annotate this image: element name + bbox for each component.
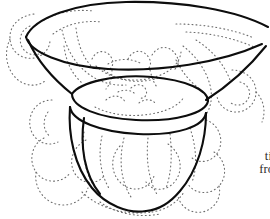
caption-line-3: from: [236, 163, 270, 177]
vessel-line-drawing: [0, 0, 270, 219]
figure-background: [0, 0, 270, 219]
caption-text-block: il tinc from: [236, 136, 270, 177]
caption-line-2: tinc: [236, 150, 270, 164]
figure-page: il tinc from: [0, 0, 270, 219]
caption-line-1: il: [236, 136, 270, 150]
